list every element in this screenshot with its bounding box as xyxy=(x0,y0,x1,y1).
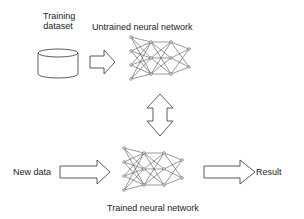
arrow-right-icon xyxy=(60,160,110,184)
neural-network-icon xyxy=(123,147,184,192)
diagram-canvas xyxy=(0,0,304,219)
neural-network-icon xyxy=(130,36,191,81)
arrow-right-icon xyxy=(90,50,115,74)
double-arrow-vertical-icon xyxy=(147,94,173,136)
arrow-right-icon xyxy=(204,160,255,184)
database-cylinder-icon xyxy=(38,49,78,78)
